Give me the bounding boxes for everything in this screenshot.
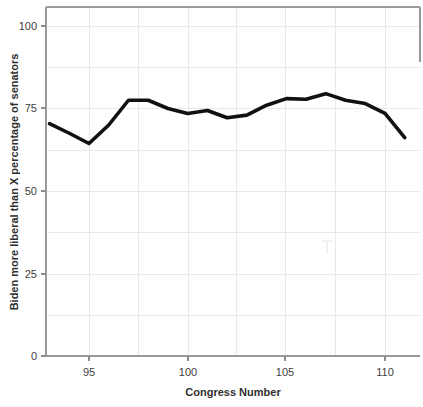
y-axis-title: Biden more liberal than X percentage of … bbox=[8, 54, 20, 311]
y-tick-label-75: 75 bbox=[25, 102, 37, 114]
line-chart-figure: 100 75 50 25 0 95 100 105 110 Biden more… bbox=[0, 0, 423, 407]
x-axis-title: Congress Number bbox=[185, 386, 281, 398]
chart-canvas: 100 75 50 25 0 95 100 105 110 Biden more… bbox=[0, 0, 423, 407]
x-tick-label-110: 110 bbox=[376, 366, 394, 378]
x-tick-label-95: 95 bbox=[83, 366, 95, 378]
y-axis-tick-marks bbox=[41, 26, 46, 356]
y-axis-tick-labels: 100 75 50 25 0 bbox=[19, 20, 37, 362]
x-axis-tick-marks bbox=[89, 356, 385, 361]
y-tick-label-50: 50 bbox=[25, 185, 37, 197]
plot-area-background bbox=[46, 7, 420, 356]
x-tick-label-105: 105 bbox=[276, 366, 294, 378]
y-tick-label-0: 0 bbox=[31, 350, 37, 362]
x-axis-tick-labels: 95 100 105 110 bbox=[83, 366, 394, 378]
x-tick-label-100: 100 bbox=[179, 366, 197, 378]
y-tick-label-25: 25 bbox=[25, 268, 37, 280]
y-tick-label-100: 100 bbox=[19, 20, 37, 32]
